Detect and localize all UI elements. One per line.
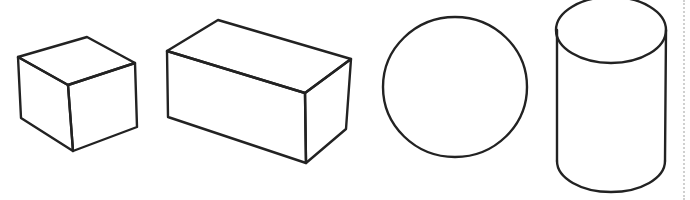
cube-top-face xyxy=(18,37,135,85)
cube-right-face xyxy=(68,63,137,151)
cylinder-shape xyxy=(556,0,666,192)
prism-side-face xyxy=(305,59,351,163)
shapes-canvas xyxy=(0,0,690,200)
cylinder-right-edge xyxy=(665,30,666,161)
dotted-divider xyxy=(683,0,685,200)
cylinder-bottom-arc xyxy=(557,161,665,192)
rectangular-prism-shape xyxy=(167,20,351,163)
prism-front-face xyxy=(167,51,306,163)
prism-top-face xyxy=(167,20,351,93)
cylinder-top-ellipse xyxy=(556,0,666,63)
sphere-shape xyxy=(383,17,527,157)
cube-shape xyxy=(18,37,137,151)
cube-left-face xyxy=(18,57,73,151)
sphere-outline xyxy=(383,17,527,157)
